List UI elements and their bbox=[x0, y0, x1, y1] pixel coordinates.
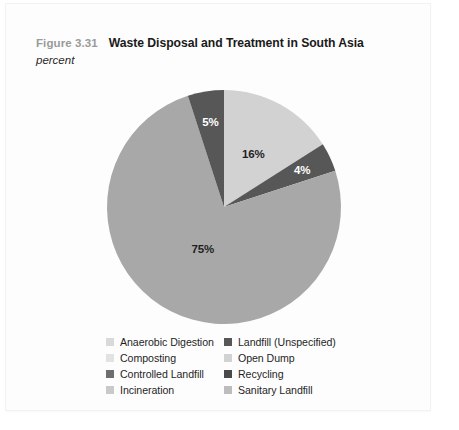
figure-number: Figure 3.31 bbox=[36, 37, 98, 49]
legend-item[interactable]: Sanitary Landfill bbox=[224, 382, 366, 398]
figure-title-line: Figure 3.31Waste Disposal and Treatment … bbox=[36, 34, 416, 51]
figure-header: Figure 3.31Waste Disposal and Treatment … bbox=[36, 34, 416, 68]
legend-item-label: Composting bbox=[120, 352, 176, 364]
legend-item[interactable]: Anaerobic Digestion bbox=[106, 334, 224, 350]
legend-swatch-icon bbox=[224, 354, 232, 362]
legend-swatch-icon bbox=[224, 386, 232, 394]
legend-swatch-icon bbox=[106, 338, 114, 346]
legend-swatch-icon bbox=[106, 386, 114, 394]
legend-swatch-icon bbox=[106, 354, 114, 362]
figure-subtitle: percent bbox=[36, 52, 416, 68]
legend-swatch-icon bbox=[224, 370, 232, 378]
legend-item[interactable]: Recycling bbox=[224, 366, 366, 382]
legend-swatch-icon bbox=[106, 370, 114, 378]
legend-item[interactable]: Composting bbox=[106, 350, 224, 366]
legend-item-label: Anaerobic Digestion bbox=[120, 336, 214, 348]
legend-item-label: Controlled Landfill bbox=[120, 368, 204, 380]
legend-item-label: Incineration bbox=[120, 384, 174, 396]
legend-item-label: Open Dump bbox=[238, 352, 295, 364]
page-title: Waste Disposal and Treatment in South As… bbox=[109, 36, 364, 50]
legend-item-label: Landfill (Unspecified) bbox=[238, 336, 336, 348]
legend-item[interactable]: Open Dump bbox=[224, 350, 366, 366]
legend-item-label: Sanitary Landfill bbox=[238, 384, 313, 396]
legend-item[interactable]: Incineration bbox=[106, 382, 224, 398]
legend-swatch-icon bbox=[224, 338, 232, 346]
figure-container: Figure 3.31Waste Disposal and Treatment … bbox=[0, 0, 459, 430]
legend-item[interactable]: Controlled Landfill bbox=[106, 366, 224, 382]
legend-item[interactable]: Landfill (Unspecified) bbox=[224, 334, 366, 350]
legend-item-label: Recycling bbox=[238, 368, 283, 380]
chart-legend: Anaerobic DigestionLandfill (Unspecified… bbox=[106, 334, 366, 398]
